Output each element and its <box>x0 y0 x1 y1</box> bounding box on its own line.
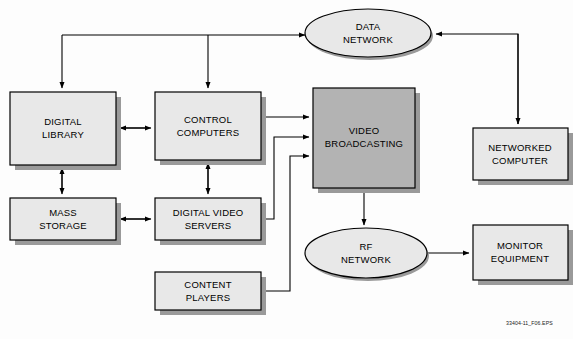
data-network-label-line1: DATA <box>356 21 381 32</box>
node-control-computers[interactable]: CONTROL COMPUTERS <box>155 92 266 165</box>
video-broadcasting-label-line1: VIDEO <box>349 125 380 136</box>
rf-network-label-line1: RF <box>359 241 372 252</box>
mass-storage-label-line1: MASS <box>49 207 77 218</box>
content-players-label-line1: CONTENT <box>184 279 231 290</box>
node-monitor-equipment[interactable]: MONITOR EQUIPMENT <box>473 225 573 285</box>
node-data-network[interactable]: DATA NETWORK <box>305 9 433 60</box>
digital-library-label-line1: DIGITAL <box>44 116 82 127</box>
networked-computer-label-line1: NETWORKED <box>488 142 552 153</box>
diagram-canvas: DATA NETWORK DIGITAL LIBRARY CONTROL COM… <box>0 0 573 339</box>
digital-video-servers-label-line2: SERVERS <box>185 220 232 231</box>
data-network-label-line2: NETWORK <box>343 34 393 45</box>
node-digital-video-servers[interactable]: DIGITAL VIDEO SERVERS <box>155 198 266 245</box>
figure-caption: 33404-11_F06.EPS <box>506 320 553 326</box>
rf-network-label-line2: NETWORK <box>341 254 391 265</box>
connector-networked-computer-to-data-network <box>436 34 518 124</box>
node-digital-library[interactable]: DIGITAL LIBRARY <box>10 92 121 170</box>
connector-layer <box>62 34 518 291</box>
node-content-players[interactable]: CONTENT PLAYERS <box>155 272 266 315</box>
block-diagram: DATA NETWORK DIGITAL LIBRARY CONTROL COM… <box>0 0 573 339</box>
node-networked-computer[interactable]: NETWORKED COMPUTER <box>473 128 573 185</box>
monitor-equipment-label-line2: EQUIPMENT <box>491 253 549 264</box>
node-mass-storage[interactable]: MASS STORAGE <box>10 198 121 245</box>
monitor-equipment-label-line1: MONITOR <box>497 240 543 251</box>
video-broadcasting-label-line2: BROADCASTING <box>325 138 403 149</box>
connector-digital-video-servers-to-video-broadcasting <box>261 137 309 219</box>
content-players-label-line2: PLAYERS <box>186 292 231 303</box>
networked-computer-label-line2: COMPUTER <box>492 155 548 166</box>
digital-video-servers-label-line1: DIGITAL VIDEO <box>173 207 244 218</box>
control-computers-label-line1: CONTROL <box>184 114 232 125</box>
digital-library-label-line2: LIBRARY <box>42 129 84 140</box>
node-rf-network[interactable]: RF NETWORK <box>305 228 429 281</box>
connector-content-players-to-video-broadcasting <box>261 156 309 291</box>
control-computers-label-line2: COMPUTERS <box>177 127 240 138</box>
mass-storage-label-line2: STORAGE <box>39 220 87 231</box>
node-video-broadcasting[interactable]: VIDEO BROADCASTING <box>313 88 420 193</box>
